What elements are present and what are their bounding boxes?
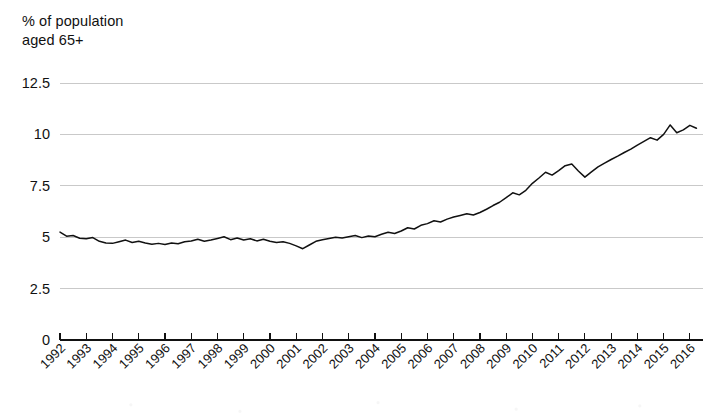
x-tick-label: 2000 bbox=[247, 341, 278, 372]
x-tick-label: 2010 bbox=[509, 341, 540, 372]
chart-plot: 02.557.51012.5 1992199319941995199619971… bbox=[0, 0, 727, 418]
x-tick-label: 2005 bbox=[378, 341, 409, 372]
y-tick-label: 2.5 bbox=[30, 281, 50, 297]
x-tick-label: 2012 bbox=[562, 341, 593, 372]
x-tick-label: 2013 bbox=[588, 341, 619, 372]
x-tick-label: 2002 bbox=[300, 341, 331, 372]
x-tick-label: 1999 bbox=[221, 341, 252, 372]
x-tick-label: 1993 bbox=[63, 341, 94, 372]
y-tick-label: 12.5 bbox=[22, 75, 50, 91]
x-tick-label: 2016 bbox=[667, 341, 698, 372]
y-tick-label: 5 bbox=[42, 229, 50, 245]
x-tick-label: 1997 bbox=[168, 341, 199, 372]
x-tick-label: 2008 bbox=[457, 341, 488, 372]
chart-container: % of population aged 65+ 02.557.51012.5 … bbox=[0, 0, 727, 418]
y-axis-ticks: 02.557.51012.5 bbox=[22, 75, 50, 348]
x-tick-label: 2015 bbox=[641, 341, 672, 372]
x-tick-label: 2007 bbox=[431, 341, 462, 372]
x-tick-label: 2003 bbox=[326, 341, 357, 372]
data-series-line bbox=[60, 125, 696, 249]
x-tick-label: 2014 bbox=[614, 341, 645, 372]
x-tick-label: 1994 bbox=[90, 341, 121, 372]
x-tick-label: 2009 bbox=[483, 341, 514, 372]
x-tick-label: 1995 bbox=[116, 341, 147, 372]
x-tick-label: 2011 bbox=[536, 341, 566, 371]
gridlines bbox=[60, 83, 703, 289]
x-tick-label: 1998 bbox=[195, 341, 226, 372]
x-tick-label: 1996 bbox=[142, 341, 173, 372]
y-tick-label: 7.5 bbox=[30, 178, 50, 194]
y-tick-label: 10 bbox=[34, 126, 50, 142]
y-tick-label: 0 bbox=[42, 332, 50, 348]
x-tick-label: 2001 bbox=[273, 341, 304, 372]
x-tick-label: 2004 bbox=[352, 341, 383, 372]
x-axis-labels: 1992199319941995199619971998199920002001… bbox=[37, 341, 698, 372]
x-tick-label: 2006 bbox=[404, 341, 435, 372]
x-axis-ticks bbox=[60, 333, 690, 340]
